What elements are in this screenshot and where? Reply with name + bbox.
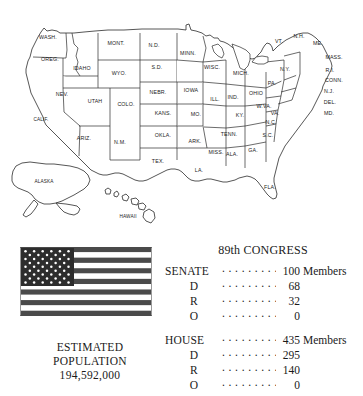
state-label-conn: CONN. (325, 77, 343, 83)
state-label-ind: IND. (227, 94, 238, 100)
state-label-calif: CALIF. (34, 117, 49, 122)
state-label-wash: WASH. (39, 34, 57, 40)
us-map-panel: WASH.OREG.IDAHOMONT.WYO.NEV.UTAHCOLO.CAL… (0, 0, 363, 238)
party-row-r: R32 (165, 294, 361, 309)
state-label-mich: MICH. (233, 70, 249, 76)
state-label-me: ME. (313, 40, 323, 46)
state-label-hawaii: HAWAII (119, 214, 136, 219)
flag-star (33, 266, 36, 269)
flag-star (50, 281, 53, 284)
dot-leader (222, 309, 276, 320)
flag-stripe (21, 295, 151, 300)
party-count: 0 (278, 378, 300, 393)
flag-star (24, 250, 27, 253)
flag-star (54, 269, 57, 272)
flag-star (67, 258, 70, 261)
flag-star (59, 281, 62, 284)
state-label-ri: R.I. (326, 67, 335, 73)
dot-leader (222, 333, 276, 344)
flag-svg (20, 247, 152, 316)
state-label-mont: MONT. (107, 40, 124, 46)
state-label-vt: VT. (275, 38, 283, 44)
flag-star (54, 254, 57, 257)
flag-stripe (21, 311, 151, 316)
flag-stripe (21, 305, 151, 310)
flag-star (41, 250, 44, 253)
state-label-va: VA. (271, 110, 280, 116)
state-label-alaska: ALASKA (34, 179, 54, 184)
state-label-sc: S.C. (263, 132, 274, 138)
flag-star (33, 250, 36, 253)
state-label-okla: OKLA. (155, 132, 171, 138)
state-label-ala: ALA. (226, 151, 238, 157)
flag-star (46, 254, 49, 257)
party-label: O (165, 309, 219, 324)
party-row-d: D68 (165, 279, 361, 294)
congress-title: 89th CONGRESS (165, 243, 361, 258)
flag-star (63, 277, 65, 280)
flag-star (50, 258, 53, 261)
state-label-la: LA. (195, 167, 203, 173)
state-label-ill: ILL. (210, 96, 219, 102)
flag-star (24, 273, 27, 276)
estimated-population-block: ESTIMATED POPULATION 194,592,000 (6, 340, 174, 382)
flag-star (67, 273, 70, 276)
flag-star (63, 254, 65, 257)
flag-star (37, 254, 40, 257)
state-label-ark: ARK. (189, 138, 202, 144)
state-label-wyo: WYO. (112, 70, 127, 76)
flag-star (63, 269, 65, 272)
flag-star (50, 266, 53, 269)
state-label-minn: MINN. (180, 50, 196, 56)
state-label-miss: MISS. (208, 149, 223, 155)
party-count: 68 (278, 279, 300, 294)
flag-star (59, 273, 62, 276)
chamber-list: SENATE100MembersD68R32O0HOUSE435MembersD… (165, 264, 361, 393)
party-row-d: D295 (165, 348, 361, 363)
state-label-nm: N.M. (114, 139, 126, 145)
flag-star (29, 254, 32, 257)
state-label-pa: PA. (268, 80, 277, 86)
flag-star (50, 273, 53, 276)
state-label-tex: TEX. (152, 158, 164, 164)
chamber-total-row: HOUSE435Members (165, 333, 361, 348)
state-label-iowa: IOWA (184, 87, 199, 93)
state-label-wisc: WISC. (204, 64, 220, 70)
chamber-unit: Members (300, 264, 361, 279)
chamber-unit: Members (300, 333, 361, 348)
flag-star (46, 277, 49, 280)
flag-star (63, 262, 65, 265)
dot-leader (222, 348, 276, 359)
population-label-line1: ESTIMATED (6, 340, 174, 354)
flag-star (41, 281, 44, 284)
state-label-nh: N.H. (293, 33, 304, 39)
flag-star (46, 269, 49, 272)
state-label-mo: MO. (191, 111, 201, 117)
state-label-nebr: NEBR. (150, 89, 167, 95)
state-label-ga: GA. (248, 147, 258, 153)
flag-star (29, 269, 32, 272)
state-label-nc: N.C. (265, 119, 276, 125)
population-label-line2: POPULATION (6, 354, 174, 368)
flag-star (37, 277, 40, 280)
united-states-flag (20, 247, 152, 316)
chamber-total-row: SENATE100Members (165, 264, 361, 279)
party-row-r: R140 (165, 363, 361, 378)
flag-star (46, 262, 49, 265)
chamber-total: 435 (278, 333, 300, 348)
flag-star (41, 266, 44, 269)
state-label-nd: N.D. (148, 42, 159, 48)
flag-star (67, 250, 70, 253)
chamber-total: 100 (278, 264, 300, 279)
flag-star (41, 258, 44, 261)
flag-stripe (21, 289, 151, 294)
flag-stripe (21, 300, 151, 305)
flag-star (33, 258, 36, 261)
state-label-oreg: OREG. (41, 56, 59, 62)
party-count: 140 (278, 363, 300, 378)
flag-star (50, 250, 53, 253)
party-label: D (165, 279, 219, 294)
flag-star (33, 281, 36, 284)
flag-star (29, 262, 32, 265)
party-label: O (165, 378, 219, 393)
